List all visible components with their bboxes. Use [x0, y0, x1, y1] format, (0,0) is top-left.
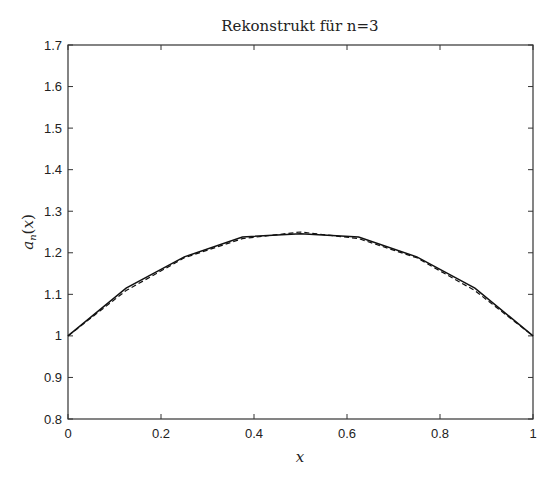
y-tick-label: 1.6	[44, 79, 62, 94]
y-tick-label: 1.3	[44, 204, 62, 219]
y-tick-label: 1.5	[44, 121, 62, 136]
x-tick-label: 0.6	[338, 426, 356, 441]
y-tick-label: 1	[55, 328, 62, 343]
x-axis-label: x	[296, 448, 305, 466]
y-axis-label: an(x)	[19, 214, 38, 250]
x-tick-label: 1	[529, 426, 536, 441]
x-tick-label: 0.8	[431, 426, 449, 441]
x-axis: 00.20.40.60.81	[64, 45, 536, 441]
x-tick-label: 0	[64, 426, 71, 441]
y-tick-label: 1.4	[44, 162, 62, 177]
y-tick-label: 1.7	[44, 38, 62, 53]
y-tick-label: 1.1	[44, 287, 62, 302]
series-line-dashed	[68, 232, 533, 336]
y-tick-label: 1.2	[44, 245, 62, 260]
y-axis: 0.80.911.11.21.31.41.51.61.7	[44, 38, 533, 427]
y-tick-label: 0.9	[44, 370, 62, 385]
chart: Rekonstrukt für n=3 0.80.911.11.21.31.41…	[0, 0, 560, 482]
series-line-solid	[68, 234, 533, 336]
y-tick-label: 0.8	[44, 412, 62, 427]
x-tick-label: 0.2	[152, 426, 170, 441]
plot-area	[68, 232, 533, 336]
chart-title: Rekonstrukt für n=3	[221, 17, 378, 35]
x-tick-label: 0.4	[245, 426, 263, 441]
